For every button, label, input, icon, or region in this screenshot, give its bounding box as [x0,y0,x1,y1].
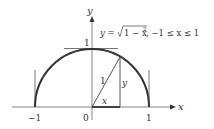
tick-label-neg-one: −1 [28,113,41,123]
x-axis-label: x [178,101,184,112]
tick-label-one-x: 1 [146,113,152,123]
equation-lhs: y = [99,28,115,38]
horizontal-leg-label: x [102,96,107,106]
equation: y = 1 − x 2 , −1 ≤ x ≤ 1 [99,26,199,38]
y-axis-arrow-icon [90,16,95,22]
x-axis-arrow-icon [170,105,176,110]
tick-label-origin: 0 [83,113,89,123]
semicircle-diagram: y x 1 −1 0 1 1 y x y = 1 − x 2 , −1 ≤ x … [0,0,214,129]
vertical-leg-label: y [121,78,128,88]
equation-domain: , −1 ≤ x ≤ 1 [146,28,199,38]
tick-label-one-y: 1 [84,38,90,48]
y-axis-label: y [86,5,93,16]
hypotenuse-label: 1 [100,76,106,86]
